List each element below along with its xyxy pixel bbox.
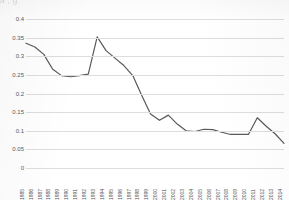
- x-axis-tick-label: 1993: [91, 189, 96, 200]
- plot-area: [26, 19, 284, 168]
- y-axis-tick-label: 0.3: [2, 53, 24, 59]
- x-axis-tick-label: 1987: [38, 189, 43, 200]
- x-axis-tick-label: 2006: [207, 189, 212, 200]
- x-axis-tick-label: 1997: [127, 189, 132, 200]
- x-axis-tick-label: 1991: [73, 189, 78, 200]
- x-axis-tick-label: 2007: [216, 189, 221, 200]
- x-axis-tick-label: 2001: [162, 189, 167, 200]
- line-chart: 0.40.350.30.250.20.150.10.050 1985198619…: [0, 0, 289, 200]
- gridline: [26, 56, 284, 57]
- x-axis-tick-label: 2003: [180, 189, 185, 200]
- gridline: [26, 75, 284, 76]
- y-axis-tick-label: 0.25: [2, 72, 24, 78]
- x-axis-tick-label: 1988: [46, 189, 51, 200]
- x-axis-tick-label: 2008: [224, 189, 229, 200]
- y-axis-tick-label: 0.1: [2, 128, 24, 134]
- y-axis: 0.40.350.30.250.20.150.10.050: [0, 19, 24, 168]
- y-axis-tick-label: 0.05: [2, 146, 24, 152]
- x-axis-tick-label: 1985: [20, 189, 25, 200]
- x-axis-tick-label: 1995: [109, 189, 114, 200]
- gridline: [26, 19, 284, 20]
- x-axis-tick-label: 2004: [189, 189, 194, 200]
- x-axis-tick-label: 1994: [100, 189, 105, 200]
- x-axis-tick-label: 2010: [242, 189, 247, 200]
- y-axis-tick-label: 0.4: [2, 16, 24, 22]
- x-axis-tick-label: 2011: [251, 189, 256, 200]
- x-axis: 1985198619871988198919901991199219931994…: [26, 169, 284, 200]
- x-axis-tick-label: 1996: [118, 189, 123, 200]
- gridline: [26, 131, 284, 132]
- x-axis-tick-label: 1986: [29, 189, 34, 200]
- x-axis-tick-label: 2013: [269, 189, 274, 200]
- gridline: [26, 94, 284, 95]
- x-axis-tick-label: 2012: [260, 189, 265, 200]
- y-axis-tick-label: 0.2: [2, 91, 24, 97]
- gridline: [26, 38, 284, 39]
- gridline: [26, 149, 284, 150]
- y-axis-tick-label: 0.35: [2, 35, 24, 41]
- y-axis-tick-label: 0: [2, 165, 24, 171]
- x-axis-tick-label: 1992: [82, 189, 87, 200]
- gridline: [26, 112, 284, 113]
- x-axis-tick-label: 1989: [55, 189, 60, 200]
- x-axis-tick-label: 1999: [144, 189, 149, 200]
- x-axis-tick-label: 1998: [135, 189, 140, 200]
- x-axis-tick-label: 2000: [153, 189, 158, 200]
- x-axis-tick-label: 2009: [233, 189, 238, 200]
- x-axis-tick-label: 1990: [64, 189, 69, 200]
- y-axis-tick-label: 0.15: [2, 109, 24, 115]
- x-axis-tick-label: 2002: [171, 189, 176, 200]
- x-axis-tick-label: 2014: [278, 189, 283, 200]
- x-axis-tick-label: 2005: [198, 189, 203, 200]
